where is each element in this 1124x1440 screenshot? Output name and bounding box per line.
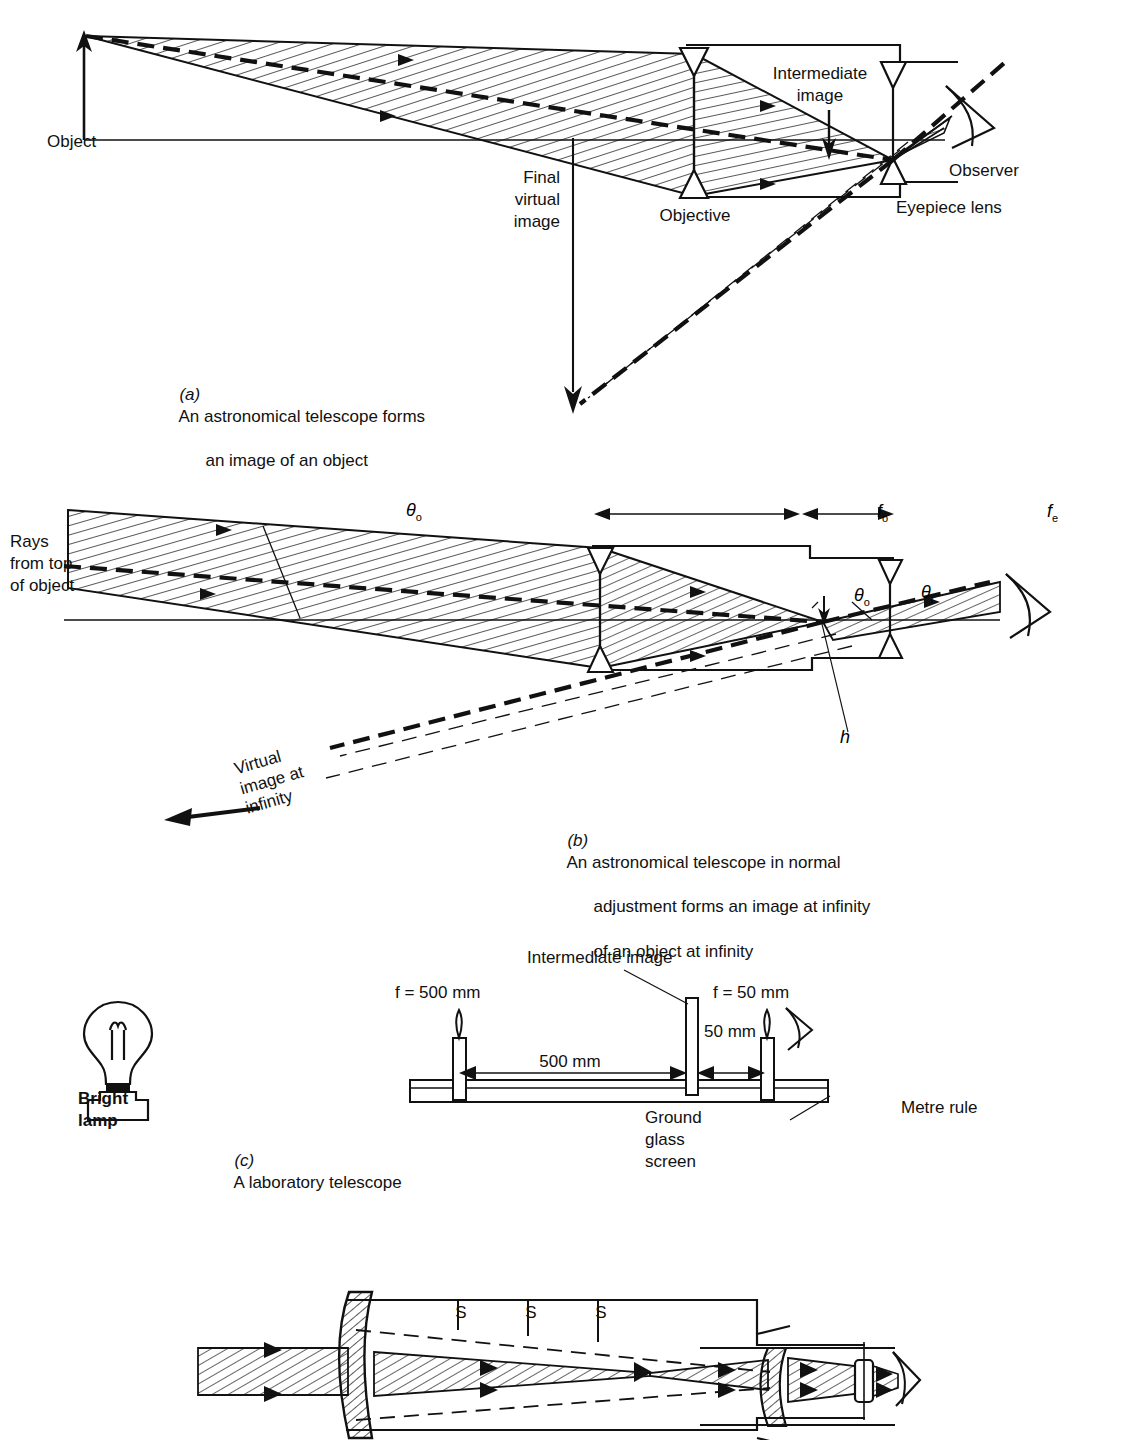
- final-virtual-image-label-l2: virtual: [400, 190, 560, 211]
- observer-eye-symbol-c: [786, 1008, 812, 1050]
- object-arrow: [76, 30, 92, 140]
- object-label: Object: [47, 132, 96, 153]
- f-o-label: fo: [877, 501, 888, 524]
- bright-lamp-label-l1: Bright: [78, 1089, 128, 1110]
- bright-lamp-label-l2: lamp: [78, 1111, 118, 1132]
- ground-glass-label-l2: glass: [645, 1130, 685, 1151]
- objective-lens-holder-c: [453, 1010, 466, 1100]
- stop-label-2: S: [518, 1303, 544, 1324]
- caption-b-line1: An astronomical telescope in normal: [567, 853, 841, 872]
- rays-from-top-label-l3: of object: [10, 576, 74, 597]
- theta-i-label: θi: [921, 582, 933, 605]
- parallel-incident-beam-b: [68, 510, 600, 668]
- ground-glass-screen: [686, 998, 698, 1095]
- caption-c-line1: A laboratory telescope: [234, 1173, 402, 1192]
- panel-d-diagram: [0, 1230, 1124, 1440]
- caption-a: (a) An astronomical telescope forms an i…: [170, 362, 425, 472]
- f-objective-label-c: f = 500 mm: [395, 983, 481, 1004]
- emergent-beam-b: [823, 582, 1000, 640]
- observer-label-a: Observer: [949, 161, 1019, 182]
- objective-label-a: Objective: [640, 206, 750, 227]
- intermediate-image-label-c: Intermediate image: [527, 948, 673, 969]
- observer-eye-symbol-b: [1006, 574, 1050, 638]
- theta-o-label-right: θo: [854, 585, 870, 608]
- theta-o-label-left: θo: [406, 500, 422, 523]
- ground-glass-label-l3: screen: [645, 1152, 696, 1173]
- incoming-beam-d: [198, 1348, 348, 1395]
- dimension-500mm-label: 500 mm: [490, 1052, 650, 1073]
- ground-glass-label-l1: Ground: [645, 1108, 702, 1129]
- h-label: h: [840, 727, 850, 748]
- f-eyepiece-label-c: f = 50 mm: [713, 983, 789, 1004]
- stop-label-3: S: [588, 1303, 614, 1324]
- eyepiece-lens-label-a: Eyepiece lens: [896, 198, 1002, 219]
- final-virtual-image-label-l3: image: [400, 212, 560, 233]
- caption-b-marker: (b): [567, 831, 588, 850]
- stop-label-1: S: [448, 1303, 474, 1324]
- intermediate-image-label-a-l2: image: [740, 86, 900, 107]
- theta-o-leader-right: [812, 602, 818, 608]
- eyepiece-lens-holder-c: [761, 1010, 774, 1100]
- caption-b-line2: adjustment forms an image at infinity: [593, 896, 870, 918]
- metre-rule-label: Metre rule: [901, 1098, 978, 1119]
- final-virtual-image-label-l1: Final: [400, 168, 560, 189]
- emergent-beam-d: [788, 1358, 855, 1402]
- diverging-cone-d: [650, 1360, 768, 1390]
- observer-eye-symbol-a: [946, 86, 994, 148]
- intermediate-image-label-a-l1: Intermediate: [740, 64, 900, 85]
- caption-c: (c) A laboratory telescope: [225, 1128, 402, 1194]
- dimension-50mm-label: 50 mm: [704, 1022, 756, 1043]
- f-e-label: fe: [1047, 501, 1058, 524]
- rays-from-top-label-l1: Rays: [10, 532, 49, 553]
- caption-a-marker: (a): [179, 385, 200, 404]
- eyepiece-lens-d: [761, 1348, 787, 1426]
- caption-a-line1: An astronomical telescope forms: [179, 407, 426, 426]
- converging-cone-d: [374, 1352, 650, 1396]
- rays-from-top-label-l2: from top: [10, 554, 72, 575]
- final-virtual-image-arrow-a: [564, 138, 582, 414]
- intermediate-image-leader-c: [624, 970, 688, 1004]
- panel-a-diagram: [0, 0, 1124, 460]
- caption-c-marker: (c): [234, 1151, 254, 1170]
